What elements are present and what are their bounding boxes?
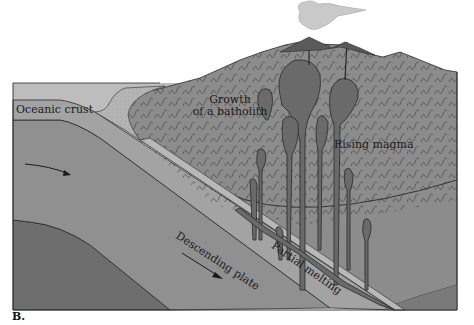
label-rising-magma: Rising magma [334, 139, 414, 151]
ash-cloud [298, 1, 366, 30]
label-growth-batholith: Growth of a batholith [190, 94, 270, 118]
label-growth-line2: of a batholith [190, 106, 270, 118]
label-oceanic-crust: Oceanic crust [16, 104, 93, 116]
figure-panel-label: B. [12, 310, 25, 323]
